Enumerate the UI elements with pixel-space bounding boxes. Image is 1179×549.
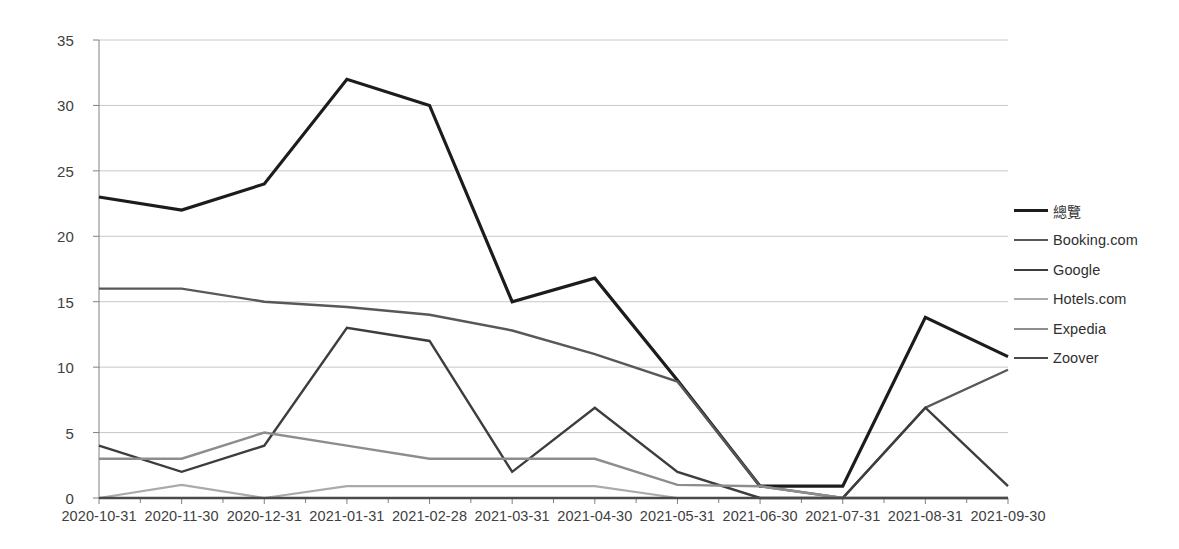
legend-item[interactable]: Zoover xyxy=(1014,344,1179,374)
x-axis-tick-label: 2021-08-31 xyxy=(888,508,963,524)
legend-item[interactable]: Expedia xyxy=(1014,314,1179,344)
legend-item[interactable]: Google xyxy=(1014,255,1179,285)
y-axis-tick-label: 35 xyxy=(34,32,74,49)
legend-item-label: Hotels.com xyxy=(1053,291,1127,307)
x-axis-label-group: 2020-10-312020-11-302020-12-312021-01-31… xyxy=(0,508,1179,538)
x-axis-tick-label: 2021-09-30 xyxy=(970,508,1045,524)
legend-item-label: Booking.com xyxy=(1053,232,1138,248)
legend-item-label: 總覽 xyxy=(1053,201,1081,221)
chart-legend: 總覽Booking.comGoogleHotels.comExpediaZoov… xyxy=(1014,196,1179,373)
series-line-0 xyxy=(99,79,1008,486)
y-axis-tick-label: 0 xyxy=(34,490,74,507)
y-axis-tick-label: 30 xyxy=(34,97,74,114)
legend-item[interactable]: 總覽 xyxy=(1014,196,1179,226)
x-axis-tick-label: 2021-06-30 xyxy=(722,508,797,524)
legend-item[interactable]: Booking.com xyxy=(1014,226,1179,256)
x-axis-tick-label: 2021-04-30 xyxy=(557,508,632,524)
x-axis-tick-label: 2021-03-31 xyxy=(475,508,550,524)
legend-item-label: Zoover xyxy=(1053,350,1099,366)
y-axis-ticks xyxy=(93,40,99,498)
y-axis-tick-label: 25 xyxy=(34,162,74,179)
line-chart: 05101520253035 2020-10-312020-11-302020-… xyxy=(0,0,1179,549)
x-axis-tick-label: 2021-01-31 xyxy=(309,508,384,524)
legend-line-swatch-icon xyxy=(1014,209,1048,212)
x-axis-tick-label: 2021-07-31 xyxy=(805,508,880,524)
x-axis-tick-label: 2020-11-30 xyxy=(145,508,219,524)
y-axis-label-group: 05101520253035 xyxy=(26,0,74,549)
legend-line-swatch-icon xyxy=(1014,357,1048,359)
series-line-3 xyxy=(99,485,1008,498)
y-axis-tick-label: 5 xyxy=(34,424,74,441)
legend-item-label: Google xyxy=(1053,262,1100,278)
legend-item[interactable]: Hotels.com xyxy=(1014,285,1179,315)
y-axis-tick-label: 15 xyxy=(34,293,74,310)
y-axis-tick-label: 10 xyxy=(34,359,74,376)
series-line-2 xyxy=(99,328,1008,498)
y-axis-tick-label: 20 xyxy=(34,228,74,245)
legend-line-swatch-icon xyxy=(1014,239,1048,241)
x-axis-tick-label: 2020-12-31 xyxy=(227,508,302,524)
legend-item-label: Expedia xyxy=(1053,321,1106,337)
legend-line-swatch-icon xyxy=(1014,269,1048,271)
chart-plot-area xyxy=(0,0,1179,549)
x-axis-tick-label: 2021-02-28 xyxy=(392,508,467,524)
data-series-group xyxy=(99,79,1008,498)
x-axis-tick-label: 2021-05-31 xyxy=(640,508,715,524)
legend-line-swatch-icon xyxy=(1014,328,1048,330)
x-axis-tick-label: 2020-10-31 xyxy=(61,508,136,524)
legend-line-swatch-icon xyxy=(1014,298,1048,300)
